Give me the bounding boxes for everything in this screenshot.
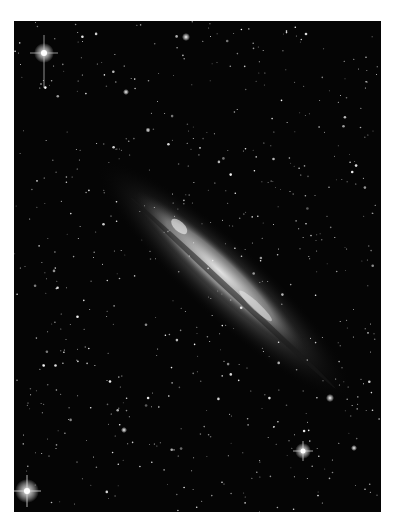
galaxy-image — [14, 21, 381, 512]
galaxy-photo — [14, 21, 381, 512]
galaxy — [71, 133, 379, 427]
